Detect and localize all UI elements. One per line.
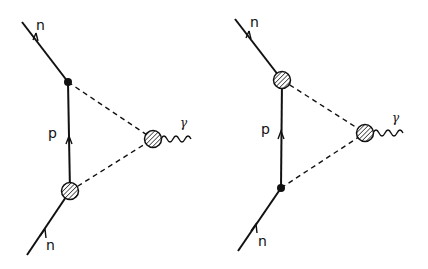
meson-line-bottom <box>281 133 365 188</box>
blob-vertex <box>62 183 79 200</box>
label-n-top: n <box>36 17 45 33</box>
label-p: p <box>261 121 270 137</box>
label-p: p <box>48 125 57 141</box>
label-gamma: γ <box>180 116 188 130</box>
label-gamma: γ <box>392 111 400 125</box>
photon-wavy-line <box>161 136 191 142</box>
point-vertex <box>277 184 285 192</box>
diagram-left: n p n γ <box>22 17 191 255</box>
blob-vertex <box>274 72 291 89</box>
label-n-bottom: n <box>46 237 55 253</box>
label-n-bottom: n <box>258 233 267 249</box>
meson-line-top <box>68 82 153 139</box>
blob-vertex-photon <box>145 131 162 148</box>
photon-wavy-line <box>373 130 403 136</box>
blob-vertex-photon <box>357 125 374 142</box>
meson-line-bottom <box>70 139 153 191</box>
label-n-top: n <box>250 14 259 30</box>
meson-line-top <box>282 80 365 133</box>
point-vertex <box>64 78 72 86</box>
neutron-out-line <box>22 22 68 82</box>
feynman-diagrams: n p n γ n p n γ <box>0 0 428 269</box>
diagram-right: n p n γ <box>235 14 403 251</box>
